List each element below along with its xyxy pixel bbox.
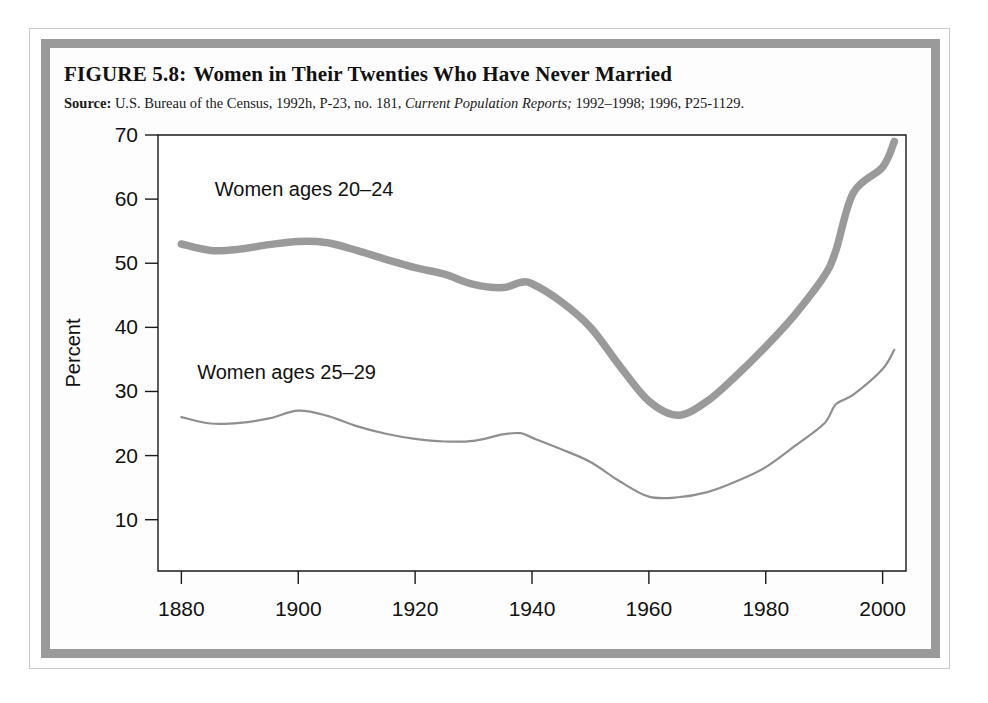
- source-text-1: U.S. Bureau of the Census, 1992h, P-23, …: [115, 95, 401, 111]
- figure-source: Source: U.S. Bureau of the Census, 1992h…: [64, 95, 744, 112]
- series-label-2: Women ages 25–29: [197, 361, 376, 383]
- x-tick-label: 1900: [275, 597, 322, 620]
- y-tick-label: 50: [115, 251, 138, 274]
- x-tick-label: 1940: [509, 597, 556, 620]
- line-chart: 10203040506070 1880190019201940196019802…: [50, 126, 931, 646]
- x-tick-label: 1920: [392, 597, 439, 620]
- y-tick-label: 60: [115, 187, 138, 210]
- source-text-2: 1992–1998; 1996, P25-1129.: [576, 95, 745, 111]
- y-tick-label: 10: [115, 508, 138, 531]
- y-tick-label: 30: [115, 379, 138, 402]
- chart-area: 10203040506070 1880190019201940196019802…: [50, 126, 931, 646]
- source-italic: Current Population Reports;: [405, 95, 572, 111]
- x-tick-label: 2000: [859, 597, 906, 620]
- figure-title: FIGURE 5.8:Women in Their Twenties Who H…: [64, 62, 672, 87]
- figure-page: FIGURE 5.8:Women in Their Twenties Who H…: [0, 0, 988, 703]
- figure-frame: FIGURE 5.8:Women in Their Twenties Who H…: [41, 39, 940, 658]
- x-axis-ticks: 1880190019201940196019802000: [158, 571, 906, 620]
- figure-title-text: Women in Their Twenties Who Have Never M…: [193, 62, 672, 86]
- y-tick-label: 70: [115, 126, 138, 146]
- figure-number: FIGURE 5.8:: [64, 62, 186, 86]
- x-tick-label: 1980: [742, 597, 789, 620]
- y-tick-label: 40: [115, 315, 138, 338]
- series-label-1: Women ages 20–24: [215, 178, 394, 200]
- figure-inner-panel: FIGURE 5.8:Women in Their Twenties Who H…: [50, 48, 931, 649]
- plot-background: [158, 135, 906, 571]
- source-prefix: Source:: [64, 95, 111, 111]
- y-axis-ticks: 10203040506070: [115, 126, 158, 531]
- y-axis-title: Percent: [62, 318, 84, 387]
- y-tick-label: 20: [115, 444, 138, 467]
- x-tick-label: 1880: [158, 597, 205, 620]
- x-tick-label: 1960: [626, 597, 673, 620]
